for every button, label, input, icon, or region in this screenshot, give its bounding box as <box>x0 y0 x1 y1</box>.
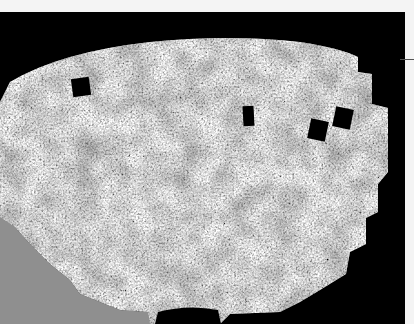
mask-square-2 <box>242 106 254 127</box>
survey-region <box>0 12 405 324</box>
axis-tick-mark <box>400 59 414 60</box>
sky-map-frame <box>0 12 405 324</box>
mask-square-1 <box>71 77 91 97</box>
